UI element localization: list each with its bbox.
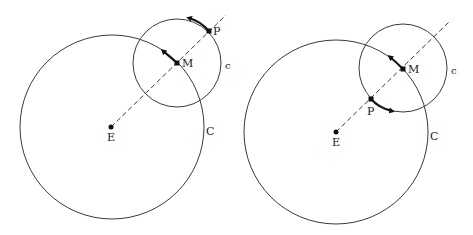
- label-epicycle: c: [451, 65, 457, 76]
- point-p: [369, 97, 374, 102]
- label-deferent: C: [206, 125, 214, 138]
- point-e: [109, 125, 114, 130]
- label-e: E: [107, 131, 115, 144]
- label-m: M: [408, 63, 419, 76]
- dashed-line: [336, 22, 449, 132]
- right-figure: E M P C c: [244, 22, 457, 224]
- label-m: M: [182, 57, 193, 70]
- label-e: E: [332, 136, 340, 149]
- point-m: [401, 67, 406, 72]
- point-e: [334, 130, 339, 135]
- label-deferent: C: [430, 130, 438, 143]
- label-p: P: [367, 105, 375, 118]
- left-figure: E M P C c: [20, 15, 231, 219]
- point-p: [207, 29, 212, 34]
- label-epicycle: c: [225, 60, 231, 71]
- point-m: [175, 61, 180, 66]
- label-p: P: [213, 25, 221, 38]
- epicycle-diagram: E M P C c E M P C c: [0, 0, 473, 235]
